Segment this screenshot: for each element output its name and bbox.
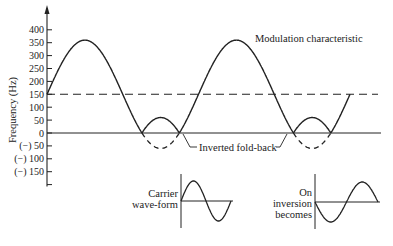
inverted-waveform-inset: Oninversionbecomes [273, 174, 380, 229]
inset-label-line: Carrier [148, 188, 178, 199]
y-tick-label: 250 [29, 63, 44, 74]
y-tick-label: 50 [34, 115, 44, 126]
inset-label-line: becomes [275, 209, 312, 220]
plot-area [47, 40, 378, 148]
y-tick-label: 100 [29, 102, 44, 113]
y-tick-label: 150 [29, 89, 44, 100]
fold-back-leader-right [276, 134, 287, 147]
diagram: 400350300250200150100500(−) 50(−) 100(−)… [0, 0, 393, 246]
y-axis-arrow [45, 5, 50, 14]
y-ticks: 400350300250200150100500(−) 50(−) 100(−)… [14, 24, 52, 184]
inverted-fold-back-curve [294, 133, 331, 148]
y-tick-label: (−) 150 [14, 166, 44, 178]
modulation-curve [47, 40, 350, 133]
inset-label-line: wave-form [132, 199, 178, 210]
fold-back-label: Inverted fold-back [199, 142, 278, 153]
y-tick-label: 300 [29, 50, 44, 61]
y-tick-label: 350 [29, 37, 44, 48]
inverted-fold-back-curve [142, 133, 179, 148]
carrier-waveform-inset: Carrierwave-form [132, 174, 233, 228]
y-axis-label: Frequency (Hz) [7, 76, 19, 143]
y-tick-label: (−) 50 [19, 140, 44, 152]
fold-back-leader-left [183, 134, 197, 147]
y-tick-label: 0 [39, 128, 44, 139]
y-tick-label: 200 [29, 76, 44, 87]
y-tick-label: (−) 100 [14, 153, 44, 165]
inset-label-line: On [299, 187, 313, 198]
insets: Carrierwave-formOninversionbecomes [132, 174, 380, 229]
inset-label-line: inversion [273, 198, 313, 209]
y-tick-label: 400 [29, 24, 44, 35]
chart-title: Modulation characteristic [255, 33, 363, 44]
